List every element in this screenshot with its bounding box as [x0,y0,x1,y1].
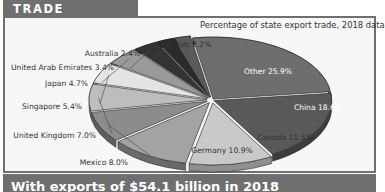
label-germany: Germany 10.9% [191,146,252,155]
label-other: Other 25.9% [244,67,292,76]
bottom-banner: With exports of $54.1 billion in 2018 [3,174,376,192]
label-united-arab-emirates: United Arab Emirates 3.4% [11,63,114,72]
label-australia: Australia 2.4% [85,49,140,58]
label-singapore: Singapore 5.4% [22,102,82,111]
label-mexico: Mexico 8.0% [80,158,128,167]
label-united-kingdom: United Kingdom 7.0% [13,131,96,140]
label-belgium: Belgium 2.2% [159,40,212,49]
label-japan: Japan 4.7% [44,79,88,88]
label-canada: Canada 11.5% [257,133,312,142]
label-china: China 18.6% [294,103,342,112]
